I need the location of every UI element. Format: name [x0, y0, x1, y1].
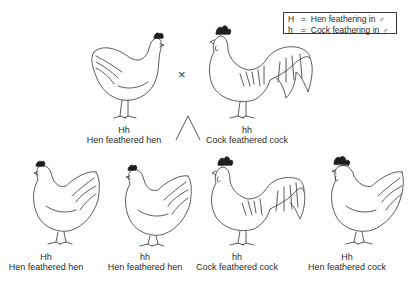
phenotype: Hen feathered hen: [9, 262, 84, 272]
cross-symbol: ×: [178, 67, 186, 82]
genotype: hh: [196, 252, 278, 262]
male-symbol-icon: ♂: [383, 27, 388, 34]
legend-text: Cock feathering in: [311, 25, 380, 35]
parent-label-hen: Hh Hen feathered hen: [87, 125, 162, 145]
rooster-illustration: [206, 155, 308, 247]
hen-feathered-cock-illustration: [318, 156, 406, 246]
male-symbol-icon: ♂: [379, 16, 384, 23]
genotype: Hh: [9, 252, 84, 262]
offspring-label-3: hh Cock feathered cock: [196, 252, 278, 272]
rooster-illustration: [200, 22, 315, 122]
offspring-label-4: Hh Hen feathered cock: [308, 252, 386, 272]
legend-text: Hen feathering in: [311, 14, 376, 24]
parent-label-cock: hh Cock feathered cock: [206, 125, 288, 145]
hen-illustration: [22, 158, 102, 246]
phenotype: Hen feathered cock: [308, 262, 386, 272]
genotype: hh: [206, 125, 288, 135]
phenotype: Hen feathered hen: [108, 262, 183, 272]
phenotype: Hen feathered hen: [87, 135, 162, 145]
genotype: hh: [108, 252, 183, 262]
genotype: Hh: [308, 252, 386, 262]
genotype: Hh: [87, 125, 162, 135]
phenotype: Cock feathered cock: [206, 135, 288, 145]
hen-illustration: [112, 160, 192, 248]
cross-connector-lines: [170, 112, 206, 144]
hen-illustration: [88, 30, 168, 122]
phenotype: Cock feathered cock: [196, 262, 278, 272]
offspring-label-1: Hh Hen feathered hen: [9, 252, 84, 272]
offspring-label-2: hh Hen feathered hen: [108, 252, 183, 272]
